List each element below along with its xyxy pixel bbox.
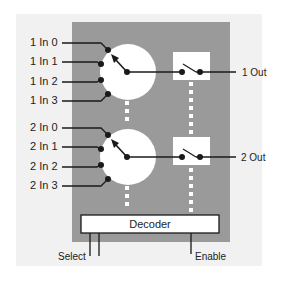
dual-multiplexer-diagram: 1 In 0 1 In 1 1 In 2 1 In 3 2 In 0 2 In … (0, 0, 293, 284)
input-label: 2 In 0 (30, 121, 58, 133)
input-label: 2 In 2 (30, 160, 58, 172)
enable-label: Enable (195, 251, 227, 262)
enable-switch-box-1 (173, 52, 210, 80)
output-label-1: 1 Out (242, 67, 267, 78)
enable-switch-box-2 (173, 137, 210, 165)
decoder-label: Decoder (129, 218, 171, 230)
input-label: 1 In 0 (30, 36, 58, 48)
output-label-2: 2 Out (241, 152, 266, 163)
select-label: Select (58, 251, 86, 262)
input-label: 2 In 1 (30, 140, 58, 152)
input-label: 1 In 1 (30, 55, 58, 67)
input-label: 2 In 3 (30, 179, 58, 191)
input-label: 1 In 2 (30, 75, 58, 87)
input-label: 1 In 3 (30, 94, 58, 106)
